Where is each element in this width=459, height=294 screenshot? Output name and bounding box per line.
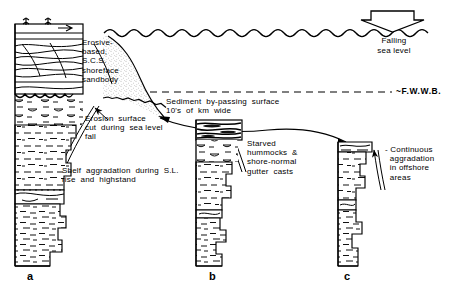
label-shelf-aggradation: Shelf aggradation during S.L. rise and h…	[62, 166, 179, 184]
column-c	[338, 142, 372, 266]
label-erosion-surface: Erosion surface cut during sea level fal…	[85, 114, 163, 142]
column-b	[196, 120, 242, 266]
label-bypass-surface: Sediment by-passing surface 10's of km w…	[166, 97, 279, 115]
figure-canvas: Erosive- based, S.C.S. shoreface sandbod…	[0, 0, 459, 294]
label-shoreface-sandbody: Erosive- based, S.C.S. shoreface sandbod…	[82, 38, 119, 84]
label-sea-level: sea level	[364, 46, 424, 55]
label-offshore-aggradation: - Continuous aggradation in offshore are…	[385, 145, 434, 182]
column-label-b: b	[209, 270, 216, 282]
falling-sea-level-arrow	[361, 11, 424, 32]
label-falling: Falling	[370, 36, 418, 45]
column-label-c: c	[344, 270, 350, 282]
label-fair-weather-wave-base: ~F.W.W.B.	[396, 86, 441, 96]
label-starved-hummocks: Starved hummocks & shore-normal gutter c…	[247, 139, 298, 176]
column-label-a: a	[27, 270, 33, 282]
